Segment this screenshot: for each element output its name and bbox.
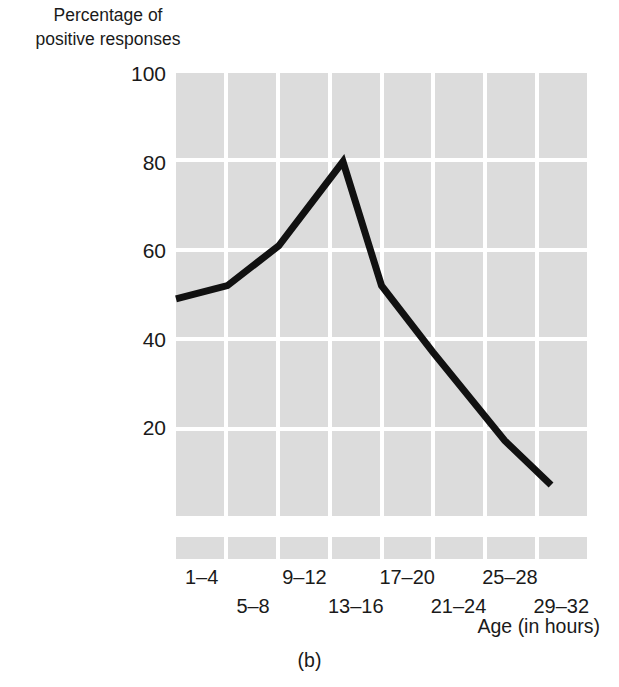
baseline-band-cell: [435, 537, 483, 559]
y-tick-label: 80: [106, 152, 166, 173]
figure-caption: (b): [0, 649, 619, 672]
baseline-band-cell: [487, 537, 535, 559]
x-tick-label: 5–8: [236, 596, 269, 616]
series-line-path: [176, 162, 551, 485]
series-line-chart: [176, 73, 587, 516]
baseline-grid-band: [176, 537, 587, 559]
y-tick-label: 20: [106, 417, 166, 438]
baseline-band-cell: [332, 537, 380, 559]
x-tick-label: 9–12: [282, 567, 327, 587]
y-tick-label: 100: [106, 63, 166, 84]
baseline-band-cell: [176, 537, 224, 559]
x-tick-label: 29–32: [534, 596, 590, 616]
y-axis-tick-labels: 10080604020: [104, 73, 166, 516]
x-tick-label: 17–20: [379, 567, 435, 587]
baseline-band-cell: [539, 537, 587, 559]
baseline-band-cell: [280, 537, 328, 559]
x-tick-label: 21–24: [431, 596, 487, 616]
plot-area: [176, 73, 587, 516]
y-tick-label: 40: [106, 329, 166, 350]
x-tick-label: 25–28: [482, 567, 538, 587]
baseline-band-cell: [228, 537, 276, 559]
x-axis-title: Age (in hours): [330, 615, 600, 638]
x-tick-label: 1–4: [185, 567, 218, 587]
x-tick-label: 13–16: [328, 596, 384, 616]
y-tick-label: 60: [106, 240, 166, 261]
baseline-band-cell: [384, 537, 432, 559]
y-axis-title: Percentage of positive responses: [8, 4, 208, 51]
